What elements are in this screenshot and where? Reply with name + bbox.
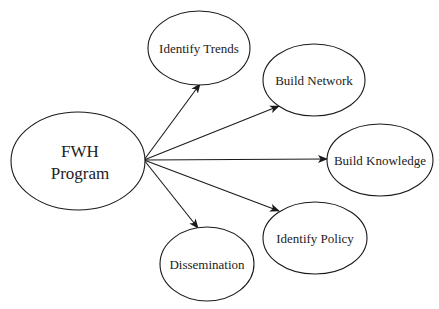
hub-label-line2: Program	[51, 164, 110, 183]
fwh-program-diagram: FWH Program Identify Trends Build Networ…	[0, 0, 439, 309]
node-label: Build Network	[275, 73, 353, 88]
node-dissemination: Dissemination	[160, 227, 254, 301]
node-label: Identify Policy	[276, 231, 354, 246]
node-fwh-program: FWH Program	[11, 112, 145, 210]
node-identify-policy: Identify Policy	[263, 202, 367, 274]
node-label: Build Knowledge	[334, 153, 426, 168]
node-label: Identify Trends	[159, 41, 239, 56]
node-build-knowledge: Build Knowledge	[327, 124, 433, 196]
hub-ellipse	[11, 112, 145, 210]
edge-to-build-knowledge	[144, 159, 327, 160]
hub-label-line1: FWH	[61, 142, 99, 161]
node-identify-trends: Identify Trends	[148, 11, 250, 85]
node-build-network: Build Network	[263, 44, 365, 116]
node-label: Dissemination	[169, 257, 245, 272]
